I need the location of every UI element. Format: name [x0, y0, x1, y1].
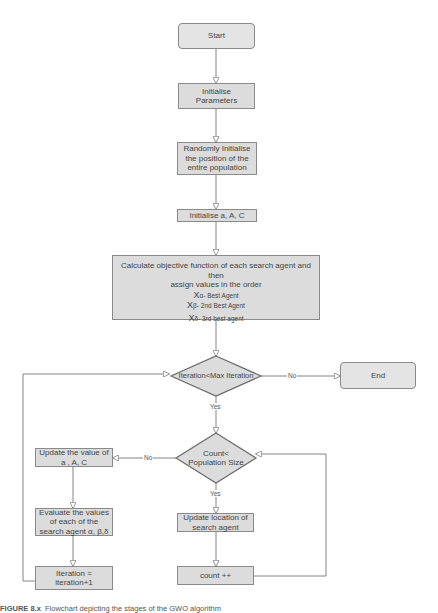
calculate-objective-node: Calculate objective function of each sea…	[112, 255, 320, 320]
count-yes-label: Yes	[209, 490, 222, 497]
count-increment-node: count ++	[177, 566, 254, 585]
initialise-parameters-node: Initialise Parameters	[178, 83, 255, 109]
update-aAC-node: Update the value of a , A, C	[35, 448, 113, 467]
calculate-line-1: Calculate objective function of each sea…	[116, 261, 316, 280]
figure-caption: FIGURE 8.x Flowchart depicting the stage…	[0, 604, 221, 613]
alpha-agent-label: Xα- Best Agent	[193, 291, 238, 301]
initialise-parameters-label: Initialise Parameters	[182, 87, 251, 106]
end-node: End	[340, 362, 416, 389]
iteration-yes-label: Yes	[209, 403, 222, 410]
initialise-aAC-label: Initialise a, A, C	[189, 211, 244, 221]
iteration-no-label: No	[287, 372, 297, 379]
count-no-label: No	[143, 454, 153, 461]
random-initialise-node: Randomly Initialise the position of the …	[177, 142, 257, 175]
caption-prefix: FIGURE 8.x	[0, 604, 41, 613]
calculate-line-2: assign values in the order	[170, 280, 261, 290]
caption-text: Flowchart depicting the stages of the GW…	[45, 604, 221, 613]
beta-agent-label: Xβ- 2nd Best Agent	[187, 301, 245, 311]
end-label: End	[371, 371, 385, 381]
start-node: Start	[178, 23, 255, 49]
iteration-check-label: Iteration<Max Iteration	[171, 371, 261, 380]
initialise-aAC-node: Initialise a, A, C	[177, 209, 257, 222]
delta-agent-label: Xδ- 3rd best agent	[188, 314, 243, 324]
evaluate-node: Evaluate the values of each of the searc…	[35, 508, 113, 536]
update-location-node: Update location of search agent	[177, 513, 254, 532]
update-aAC-label: Update the value of a , A, C	[39, 448, 109, 467]
iteration-increment-node: Iteration = iteration+1	[35, 566, 113, 590]
update-location-label: Update location of search agent	[181, 513, 250, 532]
evaluate-label: Evaluate the values of each of the searc…	[39, 508, 109, 537]
count-increment-label: count ++	[200, 571, 231, 581]
start-label: Start	[208, 31, 225, 41]
count-check-label: Count< Population Size	[186, 449, 246, 467]
iteration-increment-label: Iteration = iteration+1	[39, 569, 109, 588]
random-initialise-label: Randomly Initialise the position of the …	[181, 144, 253, 173]
